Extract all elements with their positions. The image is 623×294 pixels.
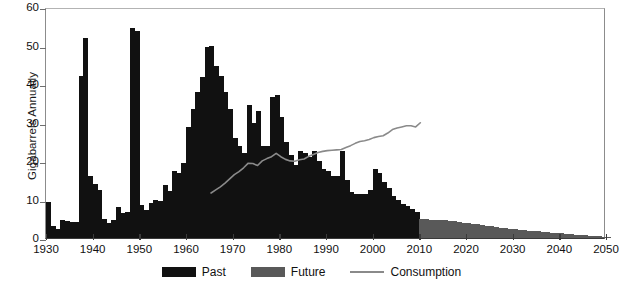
legend-swatch-past xyxy=(162,267,196,277)
y-tick-30 xyxy=(40,125,46,126)
x-tick-1990 xyxy=(326,234,327,240)
legend-label-past: Past xyxy=(202,266,226,278)
x-tick-2000 xyxy=(373,234,374,240)
legend-item-future: Future xyxy=(251,266,326,278)
x-tick-1960 xyxy=(186,234,187,240)
y-tick-40 xyxy=(40,86,46,87)
y-tick-0 xyxy=(40,240,46,241)
x-tick-1940 xyxy=(93,234,94,240)
y-tick-50 xyxy=(40,48,46,49)
legend-item-consumption: Consumption xyxy=(350,266,461,278)
y-tick-20 xyxy=(40,163,46,164)
y-tick-label-30: 30 xyxy=(6,117,39,129)
x-tick-2030 xyxy=(513,234,514,240)
y-tick-60 xyxy=(40,9,46,10)
plot-area: 0102030405060 19301940195019601970198019… xyxy=(45,8,605,239)
legend-label-consumption: Consumption xyxy=(390,266,461,278)
x-tick-1970 xyxy=(233,234,234,240)
x-tick-2050 xyxy=(606,234,607,240)
legend-item-past: Past xyxy=(162,266,226,278)
y-tick-label-60: 60 xyxy=(6,1,39,13)
x-tick-1950 xyxy=(139,234,140,240)
x-tick-1930 xyxy=(46,234,47,240)
x-tick-2020 xyxy=(466,234,467,240)
y-tick-10 xyxy=(40,202,46,203)
consumption-polyline xyxy=(211,123,420,193)
legend-swatch-future xyxy=(251,267,285,277)
y-tick-label-50: 50 xyxy=(6,40,39,52)
legend-label-future: Future xyxy=(291,266,326,278)
x-tick-2040 xyxy=(559,234,560,240)
x-tick-label-2050: 2050 xyxy=(576,243,623,255)
x-tick-1980 xyxy=(279,234,280,240)
y-tick-label-10: 10 xyxy=(6,194,39,206)
legend-line-consumption xyxy=(350,271,384,273)
y-tick-label-20: 20 xyxy=(6,155,39,167)
x-tick-2010 xyxy=(419,234,420,240)
consumption-line xyxy=(46,9,604,238)
chart-legend: PastFutureConsumption xyxy=(0,266,623,278)
chart-figure: Gigabarrels Annually 0102030405060 19301… xyxy=(0,0,623,294)
y-tick-label-40: 40 xyxy=(6,78,39,90)
